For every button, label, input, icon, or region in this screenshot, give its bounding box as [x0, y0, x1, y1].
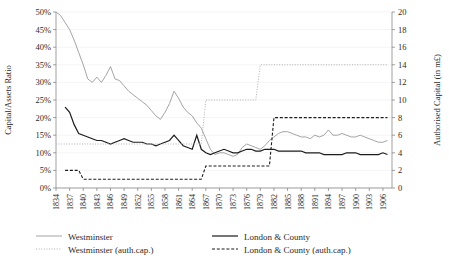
- x-tick-label: 1840: [79, 194, 88, 210]
- y2-tick-label: 18: [398, 25, 407, 35]
- series-line-westminster_authcap: [56, 65, 387, 144]
- x-tick-label: 1873: [229, 194, 238, 210]
- y2-tick-label: 2: [398, 165, 402, 175]
- series-line-london_county_authcap: [65, 118, 387, 180]
- y2-axis-title: Authorised Capital (in m£): [432, 54, 442, 146]
- y2-tick-label: 10: [398, 95, 407, 105]
- y-tick-label: 5%: [40, 165, 51, 175]
- series-line-westminster_ratio: [56, 12, 387, 156]
- series-line-london_county_ratio: [65, 107, 387, 155]
- y2-tick-label: 6: [398, 130, 402, 140]
- x-tick-label: 1906: [379, 194, 388, 210]
- x-tick-label: 1870: [215, 194, 224, 210]
- series-group: [56, 12, 387, 179]
- x-tick-label: 1900: [352, 194, 361, 210]
- x-tick-label: 1894: [324, 194, 333, 210]
- y-tick-label: 15%: [35, 130, 51, 140]
- y-tick-label: 50%: [35, 7, 51, 17]
- x-tick-label: 1879: [256, 194, 265, 210]
- x-tick-label: 1846: [106, 194, 115, 210]
- y2-tick-label: 8: [398, 113, 402, 123]
- chart-figure: 0%5%10%15%20%25%30%35%40%45%50% 02468101…: [0, 0, 449, 260]
- x-tick-label: 1849: [120, 194, 129, 210]
- y-tick-label: 10%: [35, 148, 51, 158]
- y-tick-label: 30%: [35, 77, 51, 87]
- legend-label-2: Westminster (auth.cap.): [68, 245, 154, 255]
- y-axis-title: Capital/Assets Ratio: [3, 65, 13, 135]
- gridlines-group: [56, 12, 392, 188]
- x-tick-label: 1861: [175, 194, 184, 210]
- x-tick-label: 1903: [365, 194, 374, 210]
- x-tick-label: 1897: [338, 194, 347, 210]
- x-tick-label: 1858: [161, 194, 170, 210]
- x-tick-label: 1837: [66, 194, 75, 210]
- x-tick-label: 1867: [202, 194, 211, 210]
- y-tick-label: 40%: [35, 42, 51, 52]
- x-tick-label: 1843: [93, 194, 102, 210]
- y-tick-label: 0%: [40, 183, 51, 193]
- y2-tick-label: 20: [398, 7, 407, 17]
- x-tick-label: 1882: [270, 194, 279, 210]
- x-tick-label: 1864: [188, 194, 197, 210]
- legend-label-1: London & County: [244, 232, 311, 242]
- y-tick-label: 45%: [35, 25, 51, 35]
- y-axis-ticks: 0%5%10%15%20%25%30%35%40%45%50%: [35, 7, 56, 193]
- x-tick-label: 1834: [52, 194, 61, 210]
- x-tick-label: 1885: [284, 194, 293, 210]
- x-tick-label: 1891: [311, 194, 320, 210]
- x-tick-label: 1876: [243, 194, 252, 210]
- x-axis-ticks: 1834183718401843184618491852185518581861…: [52, 188, 388, 210]
- legend-label-0: Westminster: [68, 232, 113, 242]
- chart-legend: WestminsterLondon & CountyWestminster (a…: [36, 232, 351, 255]
- y2-axis-ticks: 02468101214161820: [392, 7, 407, 193]
- chart-canvas: 0%5%10%15%20%25%30%35%40%45%50% 02468101…: [0, 0, 449, 260]
- y2-tick-label: 12: [398, 77, 407, 87]
- y2-tick-label: 0: [398, 183, 402, 193]
- x-tick-label: 1855: [147, 194, 156, 210]
- y2-tick-label: 4: [398, 148, 403, 158]
- legend-label-3: London & County (auth.cap.): [244, 245, 351, 255]
- y2-tick-label: 16: [398, 42, 407, 52]
- x-tick-label: 1888: [297, 194, 306, 210]
- y-tick-label: 20%: [35, 113, 51, 123]
- x-tick-label: 1852: [134, 194, 143, 210]
- y2-tick-label: 14: [398, 60, 407, 70]
- y-tick-label: 35%: [35, 60, 51, 70]
- y-tick-label: 25%: [35, 95, 51, 105]
